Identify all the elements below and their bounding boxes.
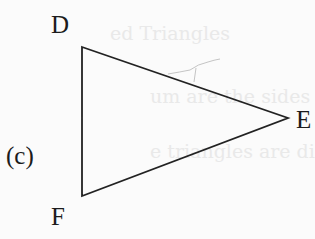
vertex-label-e: E bbox=[296, 107, 311, 132]
vertex-label-d: D bbox=[51, 12, 69, 37]
triangle-diagram bbox=[0, 0, 315, 239]
vertex-label-f: F bbox=[51, 204, 65, 229]
triangle-def bbox=[82, 47, 288, 196]
part-label: (c) bbox=[6, 143, 34, 168]
